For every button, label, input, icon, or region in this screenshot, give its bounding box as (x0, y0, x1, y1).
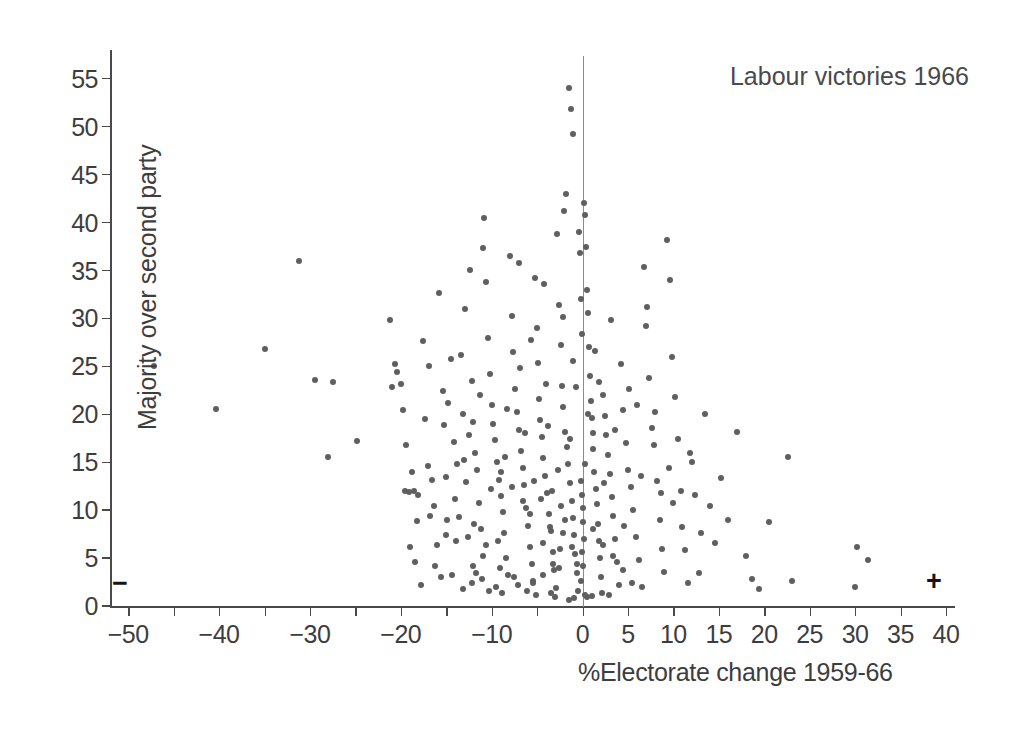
x-tick (265, 607, 266, 616)
data-point (540, 540, 546, 546)
data-point (698, 530, 704, 536)
data-point (614, 559, 620, 565)
data-point (262, 346, 268, 352)
data-point (522, 430, 528, 436)
data-point (596, 379, 602, 385)
data-point (527, 511, 533, 517)
x-tick-label: 40 (932, 620, 959, 649)
data-point (387, 317, 393, 323)
data-point (538, 496, 544, 502)
data-point (505, 572, 511, 578)
data-point (460, 586, 466, 592)
data-point (438, 574, 444, 580)
data-point (497, 565, 503, 571)
data-point (602, 413, 608, 419)
data-point (591, 469, 597, 475)
data-point (540, 572, 546, 578)
data-point (542, 473, 548, 479)
data-point (434, 542, 440, 548)
data-point (659, 546, 665, 552)
data-point (652, 409, 658, 415)
data-point (734, 429, 740, 435)
data-point (595, 521, 601, 527)
data-point (585, 411, 591, 417)
data-point (529, 561, 535, 567)
data-point (599, 590, 605, 596)
data-point (462, 306, 468, 312)
x-tick (174, 607, 175, 616)
data-point (511, 574, 517, 580)
data-point (621, 523, 627, 529)
data-point (682, 547, 688, 553)
data-point (545, 423, 551, 429)
data-point (480, 245, 486, 251)
data-point (549, 488, 555, 494)
data-point (566, 597, 572, 603)
x-tick (673, 607, 674, 616)
data-point (553, 585, 559, 591)
data-point (502, 454, 508, 460)
y-tick-label: 45 (71, 160, 98, 189)
data-point (570, 515, 576, 521)
data-point (590, 446, 596, 452)
data-point (654, 478, 660, 484)
data-point (494, 459, 500, 465)
data-point (570, 358, 576, 364)
data-point (594, 501, 600, 507)
data-point (625, 467, 631, 473)
data-point (565, 461, 571, 467)
data-point (486, 588, 492, 594)
data-point (597, 555, 603, 561)
data-point (560, 314, 566, 320)
data-point (414, 518, 420, 524)
data-point (427, 513, 433, 519)
data-point (525, 523, 531, 529)
data-point (461, 457, 467, 463)
data-point (582, 592, 588, 598)
data-point (590, 526, 596, 532)
data-point (670, 500, 676, 506)
x-tick-label: 20 (751, 620, 778, 649)
data-point (666, 465, 672, 471)
data-point (865, 557, 871, 563)
data-point (587, 373, 593, 379)
data-point (623, 440, 629, 446)
data-point (444, 517, 450, 523)
data-point (667, 277, 673, 283)
data-point (675, 436, 681, 442)
data-point (531, 478, 537, 484)
data-point (641, 264, 647, 270)
data-point (527, 544, 533, 550)
data-point (409, 469, 415, 475)
x-tick-label: 35 (887, 620, 914, 649)
data-point (563, 191, 569, 197)
data-point (646, 375, 652, 381)
data-point (588, 398, 594, 404)
data-point (458, 352, 464, 358)
data-point (592, 348, 598, 354)
data-point (552, 594, 558, 600)
data-point (573, 384, 579, 390)
data-point (702, 411, 708, 417)
data-point (664, 237, 670, 243)
data-point (469, 378, 475, 384)
data-point (603, 432, 609, 438)
data-point (749, 576, 755, 582)
data-point (498, 493, 504, 499)
data-point (575, 588, 581, 594)
data-point (470, 563, 476, 569)
x-tick (810, 607, 811, 616)
data-point (554, 231, 560, 237)
data-point (601, 480, 607, 486)
data-point (403, 442, 409, 448)
data-point (643, 323, 649, 329)
y-tick-label: 5 (85, 544, 98, 573)
y-tick-label: 30 (71, 304, 98, 333)
x-tick (401, 607, 402, 616)
data-point (493, 584, 499, 590)
data-point (498, 469, 504, 475)
data-point (476, 500, 482, 506)
data-point (579, 549, 585, 555)
x-tick-label: 25 (796, 620, 823, 649)
data-point (550, 549, 556, 555)
